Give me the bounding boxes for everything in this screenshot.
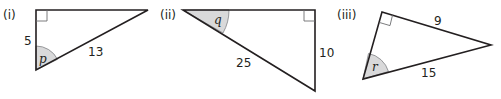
triangle-iii-label: (iii) (337, 8, 356, 22)
angle-q-label: q (214, 13, 222, 27)
triangle-ii: (ii) q 25 10 (160, 8, 334, 91)
triangle-i-outline (36, 10, 148, 70)
side-length-13: 13 (88, 45, 103, 59)
triangle-i-label: (i) (3, 8, 16, 22)
triangle-iii: (iii) 9 15 r (337, 8, 491, 80)
right-angle-marker (36, 10, 47, 21)
right-angle-marker (304, 10, 315, 21)
side-length-15: 15 (421, 66, 436, 80)
side-length-5: 5 (24, 34, 32, 48)
side-length-25: 25 (236, 56, 251, 70)
side-length-9: 9 (434, 14, 442, 28)
triangle-ii-outline (183, 10, 315, 91)
angle-p-label: p (39, 52, 47, 66)
triangle-i: (i) 5 13 p (3, 8, 148, 70)
triangle-ii-label: (ii) (160, 8, 176, 22)
side-length-10: 10 (319, 46, 334, 60)
trig-triangles-diagram: (i) 5 13 p (ii) q 25 10 (iii) 9 15 r (0, 0, 501, 99)
